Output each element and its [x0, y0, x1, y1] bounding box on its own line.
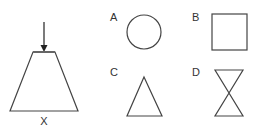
trapezoid-shape	[10, 52, 78, 111]
arrowhead-icon	[41, 45, 48, 52]
label-b: B	[192, 11, 199, 23]
hourglass-shape	[215, 70, 243, 116]
option-b[interactable]: B	[192, 11, 247, 50]
label-a: A	[110, 11, 118, 23]
label-x: X	[40, 115, 48, 127]
option-a[interactable]: A	[110, 11, 161, 49]
main-shape-x: X	[10, 22, 78, 127]
option-c[interactable]: C	[110, 66, 162, 116]
triangle-shape	[127, 77, 162, 116]
label-d: D	[192, 66, 200, 78]
label-c: C	[110, 66, 118, 78]
circle-shape	[127, 15, 161, 49]
option-d[interactable]: D	[192, 66, 243, 116]
square-shape	[212, 14, 247, 50]
diagram: X A B C D	[0, 0, 254, 129]
